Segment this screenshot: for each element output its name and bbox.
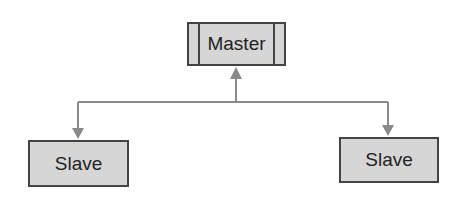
arrowhead-down-right-icon xyxy=(382,125,394,136)
arrowhead-up-icon xyxy=(230,67,242,79)
master-right-bar xyxy=(273,24,284,64)
arrowhead-down-left-icon xyxy=(72,128,84,139)
master-label: Master xyxy=(207,33,265,55)
slave-label: Slave xyxy=(55,153,103,175)
slave-node-left: Slave xyxy=(28,140,129,187)
master-left-bar xyxy=(189,24,200,64)
slave-label: Slave xyxy=(365,149,413,171)
master-node: Master xyxy=(187,22,286,66)
slave-node-right: Slave xyxy=(339,137,439,183)
